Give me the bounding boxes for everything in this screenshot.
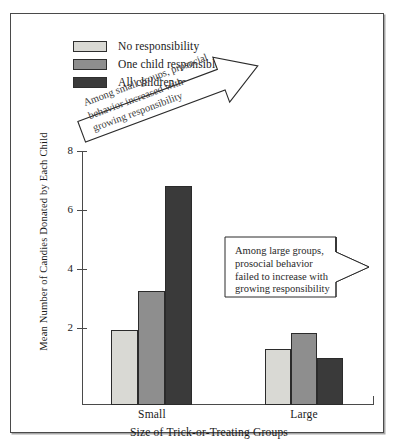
y-tick-label-8: 8 xyxy=(55,145,73,156)
large-groups-callout-line-3: failed to increase with xyxy=(235,271,347,284)
large-groups-callout-line-2: prosocial behavior xyxy=(235,258,347,271)
figure-root: No responsibility One child responsible … xyxy=(0,0,396,444)
x-axis-title: Size of Trick-or-Treating Groups xyxy=(11,426,396,438)
y-tick-6 xyxy=(77,210,87,211)
bar-large-no-responsibility xyxy=(265,349,291,405)
chart-frame: No responsibility One child responsible … xyxy=(10,13,384,433)
y-tick-4 xyxy=(77,269,87,270)
bar-small-no-responsibility xyxy=(111,330,138,405)
bar-small-all-children-responsible xyxy=(165,186,192,405)
large-groups-callout-text: Among large groups, prosocial behavior f… xyxy=(235,245,347,296)
y-tick-label-2: 2 xyxy=(55,322,73,333)
y-tick-2 xyxy=(77,328,87,329)
y-tick-label-6: 6 xyxy=(55,204,73,215)
legend-swatch-medium xyxy=(73,59,107,70)
legend-swatch-light xyxy=(73,41,107,52)
bar-small-one-child-responsible xyxy=(138,291,165,405)
bar-large-all-children-responsible xyxy=(317,358,343,405)
y-axis-title: Mean Number of Candies Donated by Each C… xyxy=(38,127,49,357)
y-tick-8 xyxy=(77,151,87,152)
large-groups-callout-line-4: growing responsibility xyxy=(235,283,347,296)
x-category-label-large: Large xyxy=(263,408,345,420)
y-axis-line xyxy=(82,151,83,405)
x-axis-end-tick xyxy=(373,396,374,405)
large-groups-callout: Among large groups, prosocial behavior f… xyxy=(224,236,370,298)
y-tick-label-4: 4 xyxy=(55,263,73,274)
large-groups-callout-line-1: Among large groups, xyxy=(235,245,347,258)
bar-large-one-child-responsible xyxy=(291,333,317,405)
x-category-label-small: Small xyxy=(111,408,193,420)
